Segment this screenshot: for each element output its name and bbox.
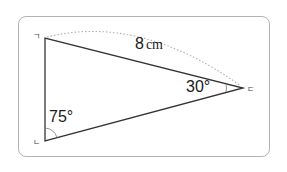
vertex-label-top-left: ㄱ — [33, 30, 40, 41]
angle-label-30: 30° — [186, 78, 210, 96]
angle-arc-75 — [45, 128, 57, 138]
vertex-label-right: ㄷ — [247, 83, 254, 94]
side-length-unit: cm — [146, 37, 163, 52]
angle-label-75: 75° — [49, 108, 73, 126]
side-length-label: 8cm — [135, 35, 163, 53]
vertex-label-bottom-left: ㄴ — [33, 136, 40, 147]
triangle-shape — [45, 38, 243, 141]
side-length-value: 8 — [135, 35, 144, 52]
triangle-diagram — [0, 0, 287, 172]
